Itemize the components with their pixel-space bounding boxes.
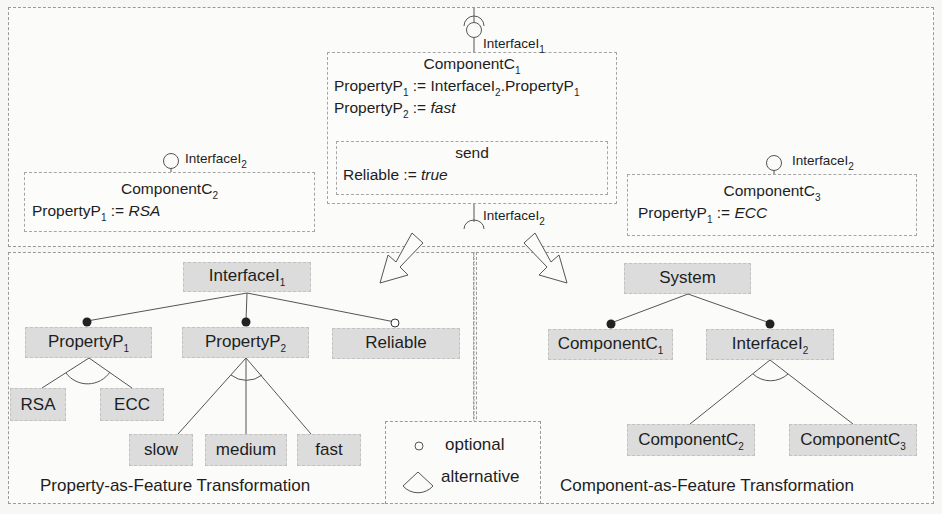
component-c1-box: ComponentC1 PropertyP1 := InterfaceI2.Pr… <box>327 52 617 204</box>
send-operation-name: send <box>337 142 607 164</box>
feature-component-c1: ComponentC1 <box>548 329 673 360</box>
c3-provided-interface-label: InterfaceI2 <box>792 153 854 168</box>
send-operation-box: send Reliable := true <box>336 141 608 195</box>
component-c3-title: ComponentC3 <box>628 180 916 202</box>
legend-optional-label: optional <box>445 435 505 455</box>
feature-fast: fast <box>297 434 361 466</box>
feature-component-c2: ComponentC2 <box>627 424 755 456</box>
component-c3-box: ComponentC3 PropertyP1 := ECC <box>627 174 917 236</box>
c1-provided-interface-label: InterfaceI1 <box>483 36 545 51</box>
component-c1-property-p2: PropertyP2 := fast <box>328 97 616 119</box>
legend-box <box>385 421 541 504</box>
feature-interface-i1: InterfaceI1 <box>183 262 311 292</box>
legend-alternative-label: alternative <box>441 467 519 487</box>
property-as-feature-caption: Property-as-Feature Transformation <box>40 476 310 496</box>
feature-ecc: ECC <box>100 388 164 421</box>
feature-system: System <box>624 263 751 294</box>
feature-reliable: Reliable <box>332 328 460 359</box>
send-reliable-assignment: Reliable := true <box>337 164 607 186</box>
component-c2-title: ComponentC2 <box>25 178 314 200</box>
feature-slow: slow <box>129 434 193 466</box>
component-c2-property-p1: PropertyP1 := RSA <box>25 200 314 222</box>
component-as-feature-caption: Component-as-Feature Transformation <box>560 476 854 496</box>
component-c1-title: ComponentC1 <box>328 53 616 75</box>
component-c3-property-p1: PropertyP1 := ECC <box>628 202 916 224</box>
feature-rsa: RSA <box>10 388 66 421</box>
c2-provided-interface-label: InterfaceI2 <box>185 151 247 166</box>
feature-property-p2: PropertyP2 <box>182 327 309 358</box>
c1-required-interface-label: InterfaceI2 <box>483 208 545 223</box>
feature-medium: medium <box>205 434 287 466</box>
feature-property-p1: PropertyP1 <box>25 327 152 358</box>
component-c1-property-p1: PropertyP1 := InterfaceI2.PropertyP1 <box>328 75 616 97</box>
feature-component-c3: ComponentC3 <box>789 424 917 456</box>
feature-interface-i2: InterfaceI2 <box>706 329 834 360</box>
component-c2-box: ComponentC2 PropertyP1 := RSA <box>24 172 315 232</box>
